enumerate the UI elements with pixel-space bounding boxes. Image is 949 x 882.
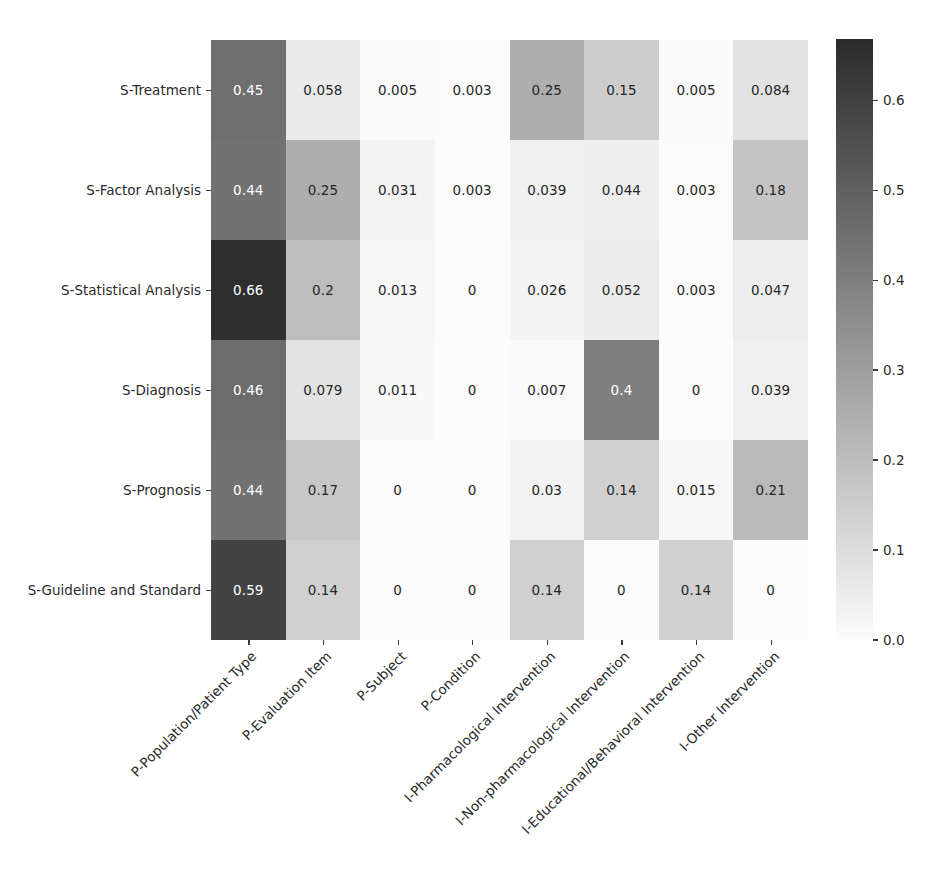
heatmap-cell: 0 [360, 540, 435, 640]
x-axis-label: P-Subject [353, 648, 409, 704]
colorbar-tick-text: 0.0 [883, 632, 904, 648]
heatmap-cell: 0.003 [435, 140, 510, 240]
colorbar-tick-text: 0.2 [883, 452, 904, 468]
heatmap-cell: 0 [435, 240, 510, 340]
heatmap-cell: 0.015 [659, 440, 734, 540]
x-axis-tick [360, 640, 435, 646]
heatmap-cell: 0.21 [733, 440, 808, 540]
x-axis-label: I-Pharmacological Intervention [401, 648, 558, 805]
colorbar [836, 39, 873, 640]
colorbar-tick-label: 0.1 [873, 542, 904, 558]
heatmap-cell: 0.59 [211, 540, 286, 640]
x-axis-ticks [211, 640, 808, 646]
colorbar-tick-label: 0.5 [873, 182, 904, 198]
colorbar-tick-text: 0.5 [883, 182, 904, 198]
colorbar-gradient [836, 39, 873, 640]
x-axis-tick [584, 640, 659, 646]
heatmap-cell: 0.44 [211, 440, 286, 540]
heatmap-cell: 0.03 [510, 440, 585, 540]
heatmap-cell: 0.039 [733, 340, 808, 440]
heatmap-cell: 0.079 [286, 340, 361, 440]
x-axis-labels: P-Population/Patient TypeP-Evaluation It… [211, 648, 808, 878]
heatmap-cell: 0 [733, 540, 808, 640]
y-axis-label: S-Treatment [0, 40, 203, 140]
heatmap-cell: 0.45 [211, 40, 286, 140]
heatmap-cell: 0.005 [659, 40, 734, 140]
colorbar-tick-label: 0.4 [873, 272, 904, 288]
x-axis-tick [659, 640, 734, 646]
heatmap-cell: 0 [435, 440, 510, 540]
x-axis-tick [435, 640, 510, 646]
colorbar-tick-label: 0.6 [873, 92, 904, 108]
heatmap-cell: 0.031 [360, 140, 435, 240]
colorbar-tick-text: 0.6 [883, 92, 904, 108]
heatmap-cell: 0.003 [659, 240, 734, 340]
heatmap-cell: 0.005 [360, 40, 435, 140]
x-axis-label: P-Condition [418, 648, 484, 714]
colorbar-tick-mark [873, 280, 878, 281]
y-axis-label: S-Factor Analysis [0, 140, 203, 240]
colorbar-tick-text: 0.3 [883, 362, 904, 378]
heatmap-cell: 0.14 [659, 540, 734, 640]
heatmap-cell: 0 [435, 540, 510, 640]
heatmap-cell: 0.011 [360, 340, 435, 440]
x-axis-tick [286, 640, 361, 646]
y-axis-labels: S-TreatmentS-Factor AnalysisS-Statistica… [0, 40, 203, 640]
heatmap-cell: 0.039 [510, 140, 585, 240]
heatmap-cell: 0.25 [510, 40, 585, 140]
heatmap-cell: 0.25 [286, 140, 361, 240]
x-axis-tick [211, 640, 286, 646]
heatmap-cell: 0.013 [360, 240, 435, 340]
heatmap-grid: 0.450.0580.0050.0030.250.150.0050.0840.4… [211, 40, 808, 640]
heatmap-cell: 0.15 [584, 40, 659, 140]
heatmap-cell: 0.003 [435, 40, 510, 140]
heatmap-cell: 0 [659, 340, 734, 440]
heatmap-cell: 0 [435, 340, 510, 440]
colorbar-ticks: 0.60.50.40.30.20.10.0 [873, 0, 933, 882]
heatmap-cell: 0.084 [733, 40, 808, 140]
x-axis-label: P-Population/Patient Type [128, 648, 260, 780]
x-axis-tick [510, 640, 585, 646]
colorbar-tick-mark [873, 549, 878, 550]
heatmap-cell: 0.044 [584, 140, 659, 240]
y-axis-label: S-Prognosis [0, 440, 203, 540]
colorbar-tick-mark [873, 369, 878, 370]
x-axis-tick [733, 640, 808, 646]
heatmap-figure: S-TreatmentS-Factor AnalysisS-Statistica… [0, 0, 949, 882]
heatmap-cell: 0.44 [211, 140, 286, 240]
colorbar-tick-mark [873, 100, 878, 101]
heatmap-cell: 0 [584, 540, 659, 640]
heatmap-cell: 0.058 [286, 40, 361, 140]
colorbar-tick-mark [873, 459, 878, 460]
heatmap-cell: 0.4 [584, 340, 659, 440]
colorbar-tick-label: 0.0 [873, 632, 904, 648]
heatmap-cell: 0.14 [510, 540, 585, 640]
y-axis-label: S-Statistical Analysis [0, 240, 203, 340]
heatmap-cell: 0 [360, 440, 435, 540]
colorbar-tick-text: 0.1 [883, 542, 904, 558]
colorbar-tick-label: 0.3 [873, 362, 904, 378]
colorbar-tick-label: 0.2 [873, 452, 904, 468]
y-axis-label: S-Diagnosis [0, 340, 203, 440]
colorbar-tick-mark [873, 639, 878, 640]
heatmap-cell: 0.18 [733, 140, 808, 240]
heatmap-cell: 0.2 [286, 240, 361, 340]
colorbar-tick-mark [873, 190, 878, 191]
y-axis-label: S-Guideline and Standard [0, 540, 203, 640]
heatmap-cell: 0.17 [286, 440, 361, 540]
heatmap-cell: 0.003 [659, 140, 734, 240]
heatmap-cell: 0.026 [510, 240, 585, 340]
heatmap-cell: 0.052 [584, 240, 659, 340]
heatmap-cell: 0.46 [211, 340, 286, 440]
heatmap-cell: 0.14 [584, 440, 659, 540]
heatmap-cell: 0.66 [211, 240, 286, 340]
heatmap-cell: 0.047 [733, 240, 808, 340]
heatmap-cell: 0.007 [510, 340, 585, 440]
heatmap-cell: 0.14 [286, 540, 361, 640]
colorbar-tick-text: 0.4 [883, 272, 904, 288]
